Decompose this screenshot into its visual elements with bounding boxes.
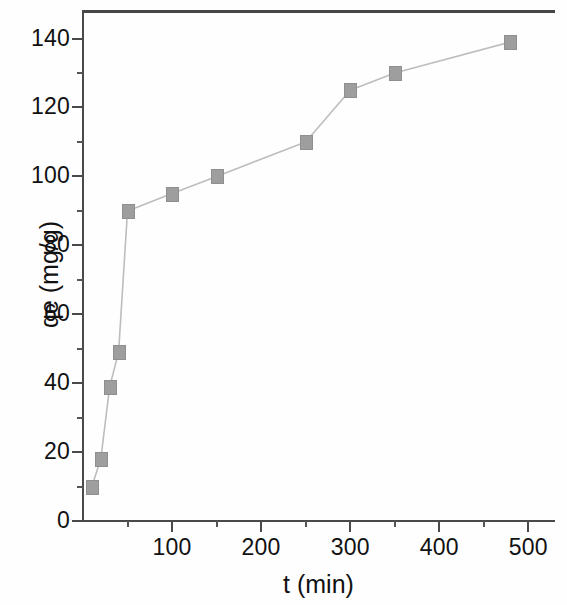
x-tick-major xyxy=(260,521,262,532)
y-tick-minor xyxy=(77,141,83,143)
x-tick-minor xyxy=(216,521,218,527)
y-tick-major xyxy=(72,38,83,40)
y-tick-minor xyxy=(77,279,83,281)
data-point-marker xyxy=(104,380,117,395)
x-tick-label: 100 xyxy=(137,536,207,559)
y-tick-label: 0 xyxy=(10,509,70,532)
x-tick-major xyxy=(171,521,173,532)
x-tick-minor xyxy=(305,521,307,527)
data-point-marker xyxy=(122,204,135,219)
y-tick-major xyxy=(72,106,83,108)
x-axis-title: t (min) xyxy=(82,572,555,597)
x-tick-label: 400 xyxy=(404,536,474,559)
x-tick-label: 200 xyxy=(226,536,296,559)
y-tick-major xyxy=(72,244,83,246)
data-point-marker xyxy=(211,169,224,184)
x-tick-major xyxy=(349,521,351,532)
data-point-marker xyxy=(113,345,126,360)
y-tick-major xyxy=(72,175,83,177)
y-tick-major xyxy=(72,313,83,315)
data-point-marker xyxy=(86,480,99,495)
x-tick-label: 500 xyxy=(493,536,563,559)
y-tick-minor xyxy=(77,72,83,74)
y-axis-title: qe (mg/g) xyxy=(37,160,62,390)
data-point-marker xyxy=(504,35,517,50)
data-point-marker xyxy=(344,83,357,98)
plot-top-frame xyxy=(82,10,555,13)
y-tick-minor xyxy=(77,486,83,488)
data-point-marker xyxy=(389,66,402,81)
data-point-marker xyxy=(166,187,179,202)
x-tick-minor xyxy=(394,521,396,527)
y-tick-minor xyxy=(77,348,83,350)
data-point-marker xyxy=(95,452,108,467)
y-tick-label: 140 xyxy=(10,27,70,50)
y-tick-label: 20 xyxy=(10,440,70,463)
x-tick-minor xyxy=(127,521,129,527)
x-tick-label: 300 xyxy=(315,536,385,559)
y-tick-label: 120 xyxy=(10,95,70,118)
data-point-marker xyxy=(300,135,313,150)
y-tick-major xyxy=(72,520,83,522)
y-axis-line xyxy=(82,10,84,522)
x-tick-major xyxy=(527,521,529,532)
y-tick-major xyxy=(72,382,83,384)
chart-figure: 020406080100120140 100200300400500 qe (m… xyxy=(0,0,567,605)
y-tick-minor xyxy=(77,210,83,212)
y-tick-major xyxy=(72,451,83,453)
y-tick-minor xyxy=(77,417,83,419)
x-tick-minor xyxy=(483,521,485,527)
x-tick-major xyxy=(438,521,440,532)
data-series-line xyxy=(0,0,567,605)
